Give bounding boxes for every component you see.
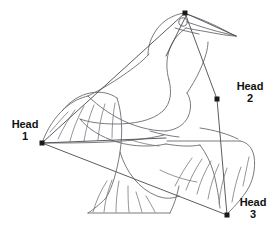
feather-tail-4 <box>128 186 129 212</box>
feather-tail-2 <box>104 180 112 212</box>
neck-back-path <box>88 54 149 96</box>
belly-path <box>80 119 166 146</box>
feather-tail-3 <box>116 181 119 212</box>
label-head-2-name: Head <box>237 80 264 92</box>
feather-tail-5 <box>136 192 142 212</box>
feather-body-2 <box>160 170 197 182</box>
mesh-edge-head1-apex <box>42 13 185 143</box>
label-head-1-number: 1 <box>5 130 45 142</box>
label-head-3-number: 3 <box>232 208 274 220</box>
feather-right-4 <box>208 164 219 199</box>
tail-right-path <box>170 186 179 213</box>
vertex-head3-icon[interactable] <box>225 213 230 218</box>
mesh-edge-apex-strut <box>166 16 186 56</box>
rear-plume-top-path <box>200 128 238 139</box>
rear-body-wisp-path <box>150 131 179 137</box>
feather-tail-6 <box>146 196 155 212</box>
feather-body-1 <box>131 140 159 146</box>
vertex-markers-group <box>40 11 230 218</box>
label-head-2: Head 2 <box>228 80 272 104</box>
feather-left-6 <box>112 103 115 138</box>
body-rear-lower-path <box>166 144 200 146</box>
mesh-edge-apex-head2 <box>185 13 217 99</box>
vertex-apex-icon[interactable] <box>183 11 188 16</box>
feather-right-7 <box>243 157 249 186</box>
label-head-1: Head 1 <box>5 118 45 142</box>
vertex-head2-icon[interactable] <box>215 97 220 102</box>
breast-curve-path <box>80 80 171 124</box>
label-head-2-number: 2 <box>228 92 272 104</box>
feather-left-4 <box>84 105 94 141</box>
label-head-3: Head 3 <box>232 196 274 220</box>
tail-scoop-path <box>120 152 179 198</box>
label-head-1-name: Head <box>12 118 39 130</box>
feather-right-3 <box>197 161 211 194</box>
feather-left-2 <box>58 110 75 139</box>
label-head-3-name: Head <box>240 196 267 208</box>
mesh-edge-head1-head3 <box>42 143 227 215</box>
bird-mesh-diagram: Head 1 Head 2 Head 3 <box>0 0 277 242</box>
